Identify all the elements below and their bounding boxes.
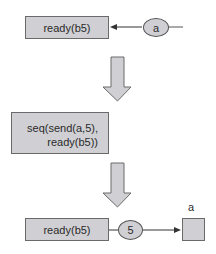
process-line-1: seq(send(a,5),	[12, 121, 98, 135]
message-ellipse: a	[143, 18, 169, 37]
arrowhead-right-icon	[174, 227, 181, 233]
process-box-ready: ready(b5)	[25, 16, 109, 39]
channel-label: a	[188, 201, 194, 213]
message-label: 5	[127, 224, 133, 236]
message-label: a	[153, 22, 159, 34]
arrowhead-left-icon	[110, 24, 117, 30]
process-label: ready(b5)	[43, 224, 90, 236]
process-line-2: ready(b5))	[12, 135, 98, 149]
message-ellipse: 5	[118, 220, 143, 240]
process-box-ready-final: ready(b5)	[25, 218, 109, 241]
down-arrow-icon	[103, 163, 131, 207]
channel-box	[182, 218, 205, 241]
process-box-seq: seq(send(a,5), ready(b5))	[11, 112, 109, 154]
process-label: ready(b5)	[43, 22, 90, 34]
down-arrow-icon	[103, 57, 131, 101]
